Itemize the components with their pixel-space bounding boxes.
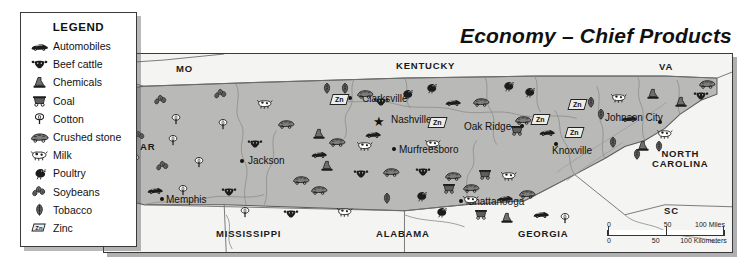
map-automobile-icon [146,182,164,200]
map-zinc-icon: Zn [427,117,447,128]
scale-km-zero: 0 [607,237,611,244]
map-soybeans-icon [154,158,172,176]
map-cotton-icon [190,154,208,172]
legend-item-label: Milk [53,149,72,161]
page-title: Economy – Chief Products [460,24,732,48]
map-chemicals-icon [310,126,328,144]
map-cotton-icon [236,204,254,222]
map-tobacco-icon [604,134,622,152]
legend-item-label: Automobiles [53,40,111,52]
scale-km-numbers: 0 50 100 Kilometers [607,237,725,246]
svg-text:Zn: Zn [35,225,43,231]
scale-km-mid: 50 [652,237,660,244]
legend-item-tobacco: Tobacco [21,201,136,219]
map-beef-cattle-icon [372,94,390,112]
cotton-icon [28,111,50,127]
map-automobile-icon [538,124,556,142]
city-label-nashville: Nashville [391,114,432,125]
city-dot [392,147,396,151]
city-label-jackson: Jackson [248,155,285,166]
legend-item-label: Beef cattle [53,58,103,70]
map-cotton-icon [167,111,185,129]
map-crushed-stone-icon [328,134,346,152]
map-poultry-icon [499,78,517,96]
map-zinc-icon: Zn [564,127,584,138]
map-milk-icon [336,204,354,222]
legend-item-label: Chemicals [53,76,102,88]
state-label-va: VA [659,62,673,72]
scale-miles-mid: 50 [664,221,672,228]
city-dot [240,159,244,163]
soybeans-icon [28,184,50,200]
map-poultry-icon [398,86,416,104]
state-label-sc: SC [664,206,679,216]
map-zinc-icon: Zn [530,114,550,125]
legend-item-zinc: ZnZinc [21,219,136,237]
legend-item-cotton: Cotton [21,110,136,128]
map-poultry-icon [422,80,440,98]
milk-icon [28,147,50,163]
map-chemicals-icon [318,158,336,176]
map-cotton-icon [164,132,182,150]
map-chemicals-icon [672,94,690,112]
legend-item-label: Coal [53,95,75,107]
legend-item-label: Crushed stone [53,131,121,143]
map-zinc-icon: Zn [567,99,587,110]
map-beef-cattle-icon [282,206,300,224]
map-crushed-stone-icon [277,116,295,134]
map-automobile-icon [620,110,638,128]
map-automobile-icon [496,190,514,208]
map-coal-icon [508,122,526,140]
legend-item-label: Zinc [53,222,73,234]
map-cotton-icon [174,182,192,200]
scale-miles-bar [607,230,725,236]
map-cotton-icon [214,116,232,134]
map-crushed-stone-icon [698,76,716,94]
map-zinc-icon: Zn [329,94,349,105]
legend-rows: AutomobilesBeef cattleChemicalsCoalCotto… [21,37,136,237]
legend-item-label: Cotton [53,113,84,125]
map-beef-cattle-icon [220,184,238,202]
coal-icon [28,93,50,109]
legend-item-crushed-stone: Crushed stone [21,128,136,146]
legend-item-poultry: Poultry [21,164,136,182]
tobacco-icon [28,202,50,218]
map-milk-icon [356,138,374,156]
legend-item-chemicals: Chemicals [21,73,136,91]
state-label-mo: MO [176,64,193,74]
scale-miles-end: 100 Miles [695,221,725,228]
map-milk-icon [610,90,628,108]
map-crushed-stone-icon [472,94,490,112]
map-beef-cattle-icon [352,166,370,184]
legend-title: LEGEND [21,21,136,33]
map-frame[interactable]: MOKENTUCKYVAARNORTHCAROLINAMISSISSIPPIAL… [103,53,733,253]
map-crushed-stone-icon [292,172,310,190]
map-soybeans-icon [152,92,170,110]
state-label-alabama: ALABAMA [376,229,430,239]
legend-item-label: Poultry [53,167,86,179]
map-beef-cattle-icon [246,136,264,154]
map-soybeans-icon [212,86,230,104]
city-label-knoxville: Knoxville [552,145,592,156]
legend-item-automobiles: Automobiles [21,37,136,55]
automobile-icon [28,38,50,54]
map-poultry-icon [412,188,430,206]
legend-item-milk: Milk [21,146,136,164]
map-poultry-icon [432,204,450,222]
map-crushed-stone-icon [382,164,400,182]
map-milk-icon [256,96,274,114]
legend-item-coal: Coal [21,92,136,110]
map-tobacco-icon [650,138,668,156]
chemicals-icon [28,74,50,90]
legend-item-label: Soybeans [53,186,100,198]
map-tobacco-icon [378,190,396,208]
legend-item-beef-cattle: Beef cattle [21,55,136,73]
legend-item-label: Tobacco [53,204,92,216]
map-poultry-icon [520,84,538,102]
state-label-mississippi: MISSISSIPPI [216,229,281,239]
state-label-georgia: GEORGIA [518,229,568,239]
map-beef-cattle-icon [414,164,432,182]
map-coal-icon [440,180,458,198]
poultry-icon [28,165,50,181]
map-crushed-stone-icon [310,182,328,200]
